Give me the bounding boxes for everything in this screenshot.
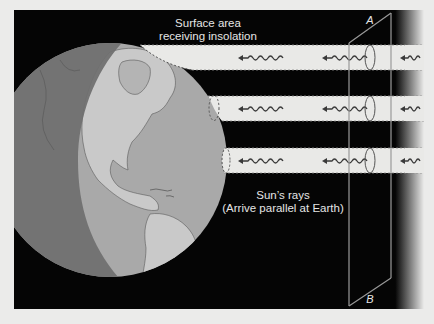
surface-area-label-line2: receiving insolation	[159, 30, 257, 42]
surface-area-label-line1: Surface area	[175, 17, 241, 29]
plane-label-a: A	[365, 14, 373, 26]
plane-label-b: B	[366, 293, 373, 305]
sun-rays-label-line2: (Arrive parallel at Earth)	[222, 202, 344, 214]
insolation-diagram: Surface area receiving insolation Sun’s …	[0, 0, 434, 324]
sun-rays-label-line1: Sun’s rays	[256, 189, 310, 201]
